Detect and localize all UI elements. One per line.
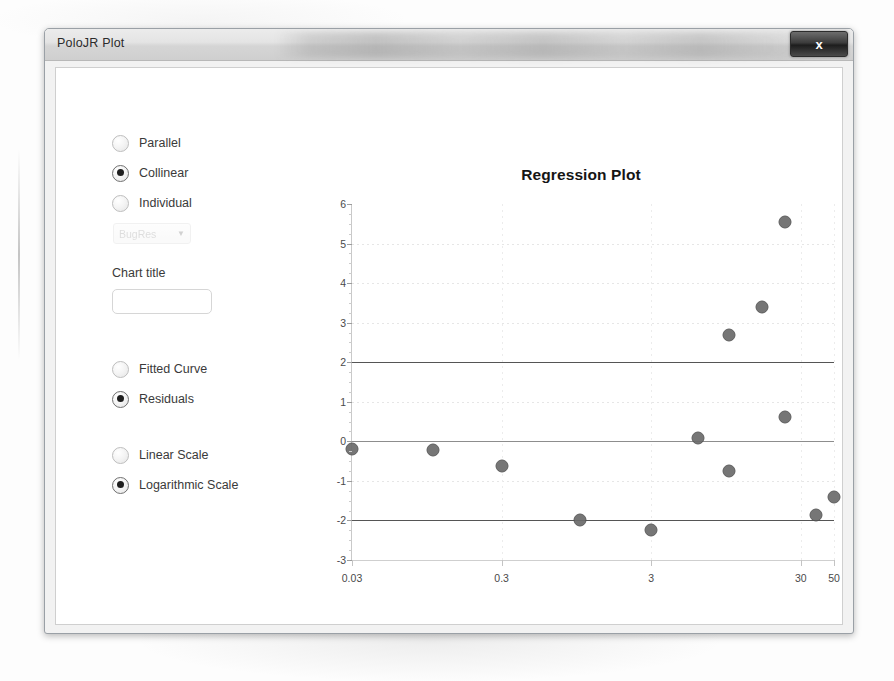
x-axis-tick-label: 0.03 [342,572,362,584]
y-axis-minor-tick [349,530,352,531]
regression-plot: Regression Plot -3-2-101234560.030.33305… [316,128,846,588]
radio-individual-indicator[interactable] [112,195,129,212]
y-axis-minor-tick [349,382,352,383]
data-point [778,410,791,423]
chart-title-input[interactable] [112,289,212,314]
data-point [810,509,823,522]
y-axis-tick-mark [347,402,352,403]
x-axis-tick-label: 50 [828,572,840,584]
radio-collinear[interactable]: Collinear [112,158,277,188]
close-icon[interactable]: x [790,31,848,57]
y-axis-minor-tick [349,422,352,423]
titlebar-blurred-background [275,32,835,58]
gridline-horizontal [352,244,834,245]
window-client-area: Parallel Collinear Individual BugRes ▼ C… [55,67,843,625]
data-point [755,300,768,313]
x-axis-tick-mark [502,560,503,566]
data-point [427,444,440,457]
y-axis-minor-tick [349,461,352,462]
radio-residuals[interactable]: Residuals [112,384,277,414]
chart-title: Regression Plot [316,166,846,184]
y-axis-minor-tick [349,333,352,334]
y-axis-tick-label: 2 [320,356,346,368]
gridline-horizontal [352,402,834,403]
plot-area [352,204,834,560]
y-axis-tick-label: -3 [320,554,346,566]
y-axis-minor-tick [349,550,352,551]
data-point [828,490,841,503]
radio-collinear-indicator[interactable] [112,165,129,182]
y-axis-minor-tick [349,303,352,304]
footer-bar: Save as CSV Save as PNG [56,588,846,628]
y-axis-tick-label: -1 [320,475,346,487]
reference-line [352,520,834,521]
radio-linear-scale[interactable]: Linear Scale [112,440,277,470]
radio-linear-scale-indicator[interactable] [112,447,129,464]
y-axis-minor-tick [349,412,352,413]
desktop-left-edge-artifact [18,150,20,360]
y-axis-tick-mark [347,441,352,442]
radio-parallel-indicator[interactable] [112,135,129,152]
reference-line [352,362,834,363]
y-axis-minor-tick [349,511,352,512]
y-axis-minor-tick [349,392,352,393]
y-axis-tick-label: 1 [320,396,346,408]
data-point [573,513,586,526]
y-axis-minor-tick [349,263,352,264]
dataset-dropdown-value: BugRes [119,228,156,240]
y-axis-minor-tick [349,431,352,432]
y-axis-minor-tick [349,224,352,225]
y-axis-tick-label: 0 [320,435,346,447]
window-title: PoloJR Plot [57,36,125,50]
y-axis-minor-tick [349,214,352,215]
window-titlebar[interactable]: PoloJR Plot x [45,29,853,61]
radio-residuals-label: Residuals [139,392,194,406]
data-point [645,523,658,536]
x-axis-tick-label: 0.3 [494,572,509,584]
radio-individual[interactable]: Individual [112,188,277,218]
y-axis-tick-mark [347,481,352,482]
y-axis-minor-tick [349,471,352,472]
controls-panel: Parallel Collinear Individual BugRes ▼ C… [112,128,277,500]
radio-parallel[interactable]: Parallel [112,128,277,158]
chart-title-label: Chart title [112,266,277,280]
plot-x-axis-line [351,560,835,561]
control-group-spacer-2 [112,414,277,440]
y-axis-minor-tick [349,501,352,502]
radio-fitted-curve[interactable]: Fitted Curve [112,354,277,384]
gridline-horizontal [352,323,834,324]
chevron-down-icon: ▼ [177,229,185,238]
data-point [723,328,736,341]
data-point [692,432,705,445]
radio-logarithmic-scale-indicator[interactable] [112,477,129,494]
polojr-plot-window: PoloJR Plot x Parallel Collinear Individ… [44,28,854,634]
radio-individual-label: Individual [139,196,192,210]
y-axis-minor-tick [349,372,352,373]
gridline-vertical [502,204,503,560]
data-point [778,215,791,228]
x-axis-tick-mark [352,560,353,566]
y-axis-tick-mark [347,283,352,284]
data-point [723,465,736,478]
y-axis-minor-tick [349,540,352,541]
gridline-horizontal [352,481,834,482]
y-axis-tick-label: 4 [320,277,346,289]
dataset-dropdown[interactable]: BugRes ▼ [113,223,191,244]
radio-residuals-indicator[interactable] [112,391,129,408]
data-point [346,443,359,456]
radio-logarithmic-scale[interactable]: Logarithmic Scale [112,470,277,500]
y-axis-minor-tick [349,342,352,343]
y-axis-minor-tick [349,273,352,274]
y-axis-minor-tick [349,253,352,254]
gridline-horizontal [352,283,834,284]
gridline-vertical [834,204,835,560]
y-axis-tick-mark [347,323,352,324]
y-axis-minor-tick [349,491,352,492]
radio-fitted-curve-indicator[interactable] [112,361,129,378]
y-axis-tick-label: 3 [320,317,346,329]
radio-parallel-label: Parallel [139,136,181,150]
y-axis-tick-mark [347,204,352,205]
y-axis-minor-tick [349,313,352,314]
radio-collinear-label: Collinear [139,166,188,180]
y-axis-tick-label: 6 [320,198,346,210]
